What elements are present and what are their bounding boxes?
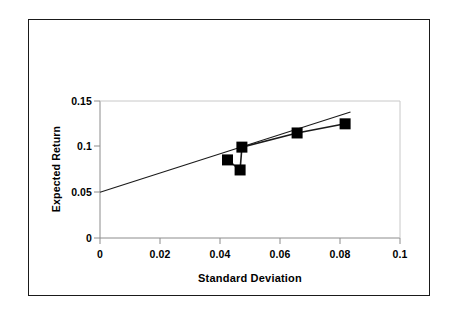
capital-market-line-path xyxy=(100,112,351,192)
x-tick-label-0: 0 xyxy=(97,248,103,260)
y-axis-ticks xyxy=(94,101,100,238)
data-point-marker-1 xyxy=(235,164,246,175)
y-tick-label-1: 0.05 xyxy=(71,186,92,198)
y-tick-label-3: 0.15 xyxy=(71,95,92,107)
x-tick-label-3: 0.06 xyxy=(270,248,291,260)
x-axis-ticks xyxy=(100,238,400,244)
data-point-marker-0 xyxy=(222,154,233,165)
axes-group xyxy=(94,101,400,244)
x-tick-label-1: 0.02 xyxy=(150,248,171,260)
x-tick-label-2: 0.04 xyxy=(210,248,231,260)
y-tick-label-2: 0.1 xyxy=(77,140,92,152)
x-tick-label-4: 0.08 xyxy=(330,248,351,260)
x-axis-title: Standard Deviation xyxy=(198,272,302,284)
data-point-marker-2 xyxy=(236,142,247,153)
x-tick-label-5: 0.1 xyxy=(393,248,408,260)
series-capital-market-line xyxy=(100,112,351,192)
data-point-marker-3 xyxy=(292,127,303,138)
plot-canvas xyxy=(0,0,453,316)
y-axis-title: Expected Return xyxy=(50,126,62,212)
series-portfolio-frontier xyxy=(222,118,351,175)
chart-figure: 0.15 0.1 0.05 0 0 0.02 0.04 0.06 0.08 0.… xyxy=(0,0,453,316)
y-tick-label-0: 0 xyxy=(86,232,92,244)
data-point-marker-4 xyxy=(340,118,351,129)
